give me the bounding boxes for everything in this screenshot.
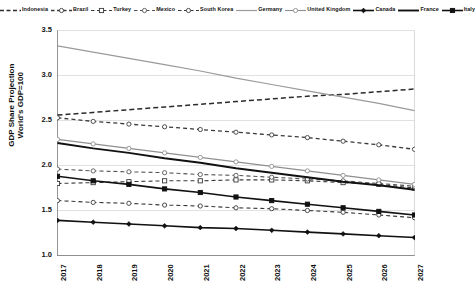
legend-key-icon	[353, 6, 374, 15]
x-tick-label: 2019	[131, 264, 139, 281]
legend-key-icon	[285, 6, 306, 15]
legend-label: Germany	[258, 7, 282, 12]
y-axis-title-line-2: World's GDP=100	[16, 25, 25, 185]
legend-label: France	[420, 7, 438, 12]
legend-label: Brazil	[73, 7, 88, 12]
plot-area	[57, 30, 414, 255]
x-tick-label: 2021	[203, 264, 211, 281]
y-tick-label: 3.0	[42, 71, 52, 79]
x-axis-tick-labels: 2017201820192020202120222023202420252026…	[57, 257, 414, 284]
series-indonesia	[58, 89, 415, 115]
y-axis-title-line-1: GDP Share Projection	[7, 25, 16, 185]
legend-item-brazil[interactable]: Brazil	[51, 6, 88, 15]
legend-key-icon	[91, 6, 112, 15]
legend-label: South Korea	[200, 7, 233, 12]
legend-item-south-korea[interactable]: South Korea	[178, 6, 233, 15]
legend-key-icon	[134, 6, 155, 15]
legend-label: Turkey	[113, 7, 131, 12]
legend-key-icon	[442, 6, 463, 15]
legend-item-germany[interactable]: Germany	[236, 6, 282, 15]
chart-legend: IndonesiaBrazilTurkeyMexicoSouth KoreaGe…	[0, 2, 433, 18]
legend-item-mexico[interactable]: Mexico	[134, 6, 175, 15]
x-tick-label: 2023	[274, 264, 282, 281]
y-axis-tick-labels: 1.01.52.02.53.03.5	[22, 0, 52, 284]
legend-key-icon	[178, 6, 199, 15]
legend-item-france[interactable]: France	[398, 6, 438, 15]
y-axis-title: GDP Share Projection World's GDP=100	[7, 25, 25, 185]
legend-key-icon	[398, 6, 419, 15]
legend-label: Italy	[464, 7, 475, 12]
legend-key-icon	[51, 6, 72, 15]
legend-label: Mexico	[156, 7, 175, 12]
x-tick-label: 2027	[417, 264, 425, 281]
y-tick-label: 1.5	[42, 206, 52, 214]
x-tick-label: 2017	[60, 264, 68, 281]
legend-item-turkey[interactable]: Turkey	[91, 6, 131, 15]
x-tick-label: 2018	[96, 264, 104, 281]
legend-item-united-kingdom[interactable]: United Kingdom	[285, 6, 350, 15]
series-canada	[57, 218, 415, 240]
legend-item-italy[interactable]: Italy	[442, 6, 475, 15]
x-tick-label: 2022	[239, 264, 247, 281]
legend-label: Canada	[375, 7, 395, 12]
legend-key-icon	[0, 6, 21, 15]
legend-item-canada[interactable]: Canada	[353, 6, 395, 15]
y-tick-label: 3.5	[42, 26, 52, 34]
y-tick-label: 2.0	[42, 161, 52, 169]
x-tick-label: 2025	[346, 264, 354, 281]
y-tick-label: 2.5	[42, 116, 52, 124]
x-tick-label: 2020	[167, 264, 175, 281]
x-tick-label: 2024	[310, 264, 318, 281]
legend-label: United Kingdom	[307, 7, 350, 12]
y-tick-label: 1.0	[42, 251, 52, 259]
x-tick-label: 2026	[381, 264, 389, 281]
legend-key-icon	[236, 6, 257, 15]
